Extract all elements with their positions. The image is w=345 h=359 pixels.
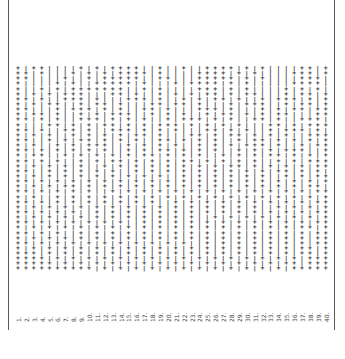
plus-mark: + (38, 266, 46, 271)
bar-mark: | (172, 266, 180, 271)
column-label: 23. (188, 296, 196, 326)
column-label: 22. (180, 296, 188, 326)
column-label: 27. (219, 296, 227, 326)
column-label-text: 35. (283, 312, 290, 322)
column-label: 11. (93, 296, 101, 326)
column-label: 20. (164, 296, 172, 326)
plus-mark: + (195, 266, 203, 271)
bar-mark: | (219, 266, 227, 271)
plus-mark: + (243, 266, 251, 271)
column-label-text: 23. (189, 312, 196, 322)
plus-mark: + (85, 266, 93, 271)
plus-mark: + (69, 266, 77, 271)
column-label: 7. (61, 296, 69, 326)
plus-mark: + (227, 266, 235, 271)
bar-mark: | (93, 266, 101, 271)
column-label-text: 39. (315, 312, 322, 322)
column-label: 30. (243, 296, 251, 326)
column-label-text: 21. (173, 312, 180, 322)
column-label-text: 20. (165, 312, 172, 322)
column-label: 26. (211, 296, 219, 326)
plus-mark: + (117, 266, 125, 271)
bar-mark: | (140, 266, 148, 271)
plus-mark: + (132, 266, 140, 271)
column-label-text: 38. (307, 312, 314, 322)
column-label-text: 24. (196, 312, 203, 322)
plus-mark: + (77, 266, 85, 271)
column-label: 33. (267, 296, 275, 326)
plus-mark: + (22, 266, 30, 271)
bar-mark: | (203, 266, 211, 271)
column-label: 34. (274, 296, 282, 326)
column-label: 9. (77, 296, 85, 326)
column-label-text: 34. (275, 312, 282, 322)
column-label: 3. (30, 296, 38, 326)
bar-mark: | (156, 266, 164, 271)
column-label-text: 22. (181, 312, 188, 322)
column-label-text: 4. (39, 316, 46, 322)
bar-mark: | (235, 266, 243, 271)
plus-mark: + (274, 266, 282, 271)
plus-mark: + (101, 266, 109, 271)
column-label-text: 40. (323, 312, 330, 322)
column-label-text: 12. (102, 312, 109, 322)
bar-mark: | (267, 266, 275, 271)
column-label-text: 1. (15, 316, 22, 322)
column-label-text: 11. (94, 312, 101, 322)
plus-mark: + (322, 266, 330, 271)
column-label-text: 17. (141, 312, 148, 322)
column-label-text: 36. (291, 312, 298, 322)
column-label-text: 8. (70, 316, 77, 322)
column-label: 6. (53, 296, 61, 326)
column-label: 31. (251, 296, 259, 326)
column-label-text: 31. (252, 312, 259, 322)
column-label-text: 15. (125, 312, 132, 322)
column-label-text: 9. (78, 316, 85, 322)
column-label-text: 27. (220, 312, 227, 322)
plus-mark: + (298, 266, 306, 271)
plus-mark: + (259, 266, 267, 271)
column-label: 38. (306, 296, 314, 326)
bar-mark: | (188, 266, 196, 271)
column-label: 32. (259, 296, 267, 326)
plus-mark: + (164, 266, 172, 271)
column-label-text: 16. (133, 312, 140, 322)
bar-mark: | (109, 266, 117, 271)
column-label-text: 32. (260, 312, 267, 322)
column-label-text: 28. (228, 312, 235, 322)
column-label: 40. (322, 296, 330, 326)
bar-mark: | (251, 266, 259, 271)
column-label-text: 13. (110, 312, 117, 322)
plus-mark: + (180, 266, 188, 271)
column-label-text: 5. (47, 316, 54, 322)
column-label-text: 29. (236, 312, 243, 322)
column-label: 2. (22, 296, 30, 326)
column-label: 29. (235, 296, 243, 326)
column-labels: 1.2.3.4.5.6.7.8.9.10.11.12.13.14.15.16.1… (14, 296, 330, 326)
column-label: 19. (156, 296, 164, 326)
column-label: 24. (195, 296, 203, 326)
column-label-text: 14. (118, 312, 125, 322)
column-label-text: 2. (23, 316, 30, 322)
column-label-text: 37. (299, 312, 306, 322)
plus-mark: + (61, 266, 69, 271)
column-label-text: 26. (212, 312, 219, 322)
column-label-text: 3. (31, 316, 38, 322)
plus-mark: + (46, 266, 54, 271)
column-label-text: 25. (204, 312, 211, 322)
column-label-text: 7. (62, 316, 69, 322)
column-label: 5. (46, 296, 54, 326)
column-label: 35. (282, 296, 290, 326)
plus-mark: + (306, 266, 314, 271)
column-label: 13. (109, 296, 117, 326)
column-label: 28. (227, 296, 235, 326)
plus-mark: + (314, 266, 322, 271)
plus-mark: + (14, 266, 22, 271)
column-label: 15. (124, 296, 132, 326)
column-label-text: 18. (149, 312, 156, 322)
column-label: 12. (101, 296, 109, 326)
grid-row: ++++++++++|+|+|+|+|+|+|+|+|+|+|+|+|+++++ (14, 266, 330, 271)
column-label: 39. (314, 296, 322, 326)
column-label: 16. (132, 296, 140, 326)
column-label-text: 33. (267, 312, 274, 322)
